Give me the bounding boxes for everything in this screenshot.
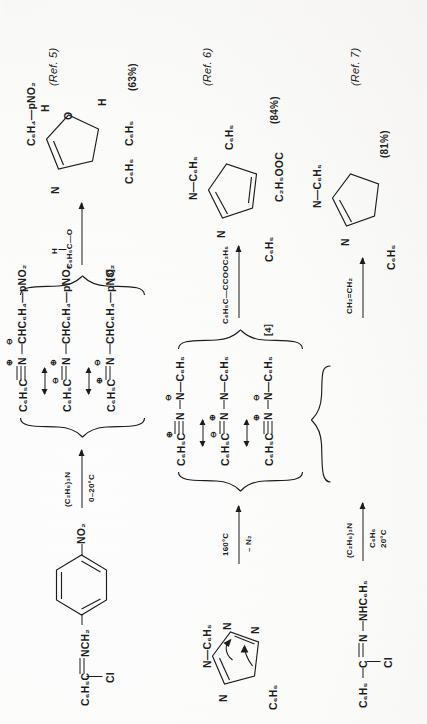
res5-left-charge: ⊖ bbox=[208, 431, 217, 438]
reaction-arrow-2 bbox=[81, 203, 82, 265]
product-phenyl-label-1: C₆H₅ bbox=[122, 158, 134, 184]
bond-c-n-b bbox=[362, 643, 363, 657]
bond-cn-b bbox=[83, 658, 84, 674]
reactant-cl-label: Cl bbox=[103, 672, 115, 683]
resonance-arrow-3 bbox=[202, 420, 203, 446]
reference-label-5: (Ref. 5) bbox=[46, 48, 58, 86]
res4-bond-2 bbox=[178, 421, 179, 434]
res5-bond-1 bbox=[219, 421, 220, 434]
reaction-arrow-6 bbox=[362, 258, 363, 318]
reactant-nitro-label: NO₂ bbox=[74, 523, 86, 544]
res5-bond-2 bbox=[223, 421, 224, 434]
oxazoline-ring bbox=[44, 99, 122, 179]
pyrazoline-n: N bbox=[338, 238, 350, 246]
resonance-arrow-1 bbox=[44, 368, 45, 394]
pyrazole-n: N bbox=[214, 230, 226, 238]
bracket-right-scheme-6 bbox=[176, 328, 306, 350]
res6-right-charge: ⊖ bbox=[251, 394, 260, 401]
res5-right: N—C₆H₅ bbox=[217, 356, 229, 400]
tetrazole-phenyl: C₆H₅ bbox=[266, 684, 278, 710]
res6-bond-3 bbox=[271, 421, 272, 434]
res6-center-charge: ⊕ bbox=[251, 414, 260, 421]
product-o-label: O bbox=[61, 112, 73, 120]
pyrazole-phenyl-1: C₆H₅ bbox=[262, 236, 274, 262]
res4-bond-3 bbox=[182, 421, 183, 434]
res6-bond-2 bbox=[267, 421, 268, 434]
reagent-h-label: H bbox=[49, 248, 58, 254]
bond-ring-no2 bbox=[81, 544, 82, 556]
res5-center-charge: ⊕ bbox=[207, 414, 216, 421]
bracket-left-scheme-5 bbox=[18, 416, 148, 438]
reagent-label-6: C₆H₅C—CCOOC₂H₅ bbox=[220, 246, 229, 324]
bracket-left-scheme-6 bbox=[176, 470, 306, 492]
condition-below: 0–20°C bbox=[86, 474, 95, 502]
pyrazoline-n-phenyl: N—C₆H₅ bbox=[310, 164, 322, 208]
product-aryl-label: C₆H₄—pNO₂ bbox=[24, 82, 36, 146]
res5-center: N bbox=[217, 412, 229, 420]
reactant-left-label: C₆H₅C bbox=[78, 673, 90, 706]
res2-bond-3 bbox=[65, 344, 66, 354]
pyrazole-phenyl-2: C₆H₅ bbox=[222, 124, 234, 150]
tetrazole-n-1: N bbox=[216, 694, 228, 702]
bond-c-cl bbox=[86, 676, 102, 677]
pyrazole-ester: C₂H₅OOC bbox=[272, 152, 284, 202]
res1-left: C₆H₅C bbox=[16, 379, 28, 412]
yield-label-7: (81%) bbox=[378, 130, 389, 158]
res1-right-charge: ⊖ bbox=[4, 338, 13, 345]
hydrazonoyl-right: NHC₆H₅ bbox=[356, 580, 368, 621]
tetrazole-n-3: N bbox=[248, 626, 260, 634]
reaction-arrow-3 bbox=[238, 506, 239, 564]
res4-right: N—C₆H₅ bbox=[173, 356, 185, 400]
product-h-label-1: H bbox=[38, 104, 50, 112]
condition-below-6: – N₂ bbox=[243, 535, 252, 552]
resonance-arrow-2 bbox=[88, 368, 89, 394]
res6-center: N bbox=[261, 412, 273, 420]
res5-bond-3 bbox=[223, 400, 224, 409]
res2-bond-1 bbox=[61, 366, 62, 380]
res3-bond-3 bbox=[109, 344, 110, 354]
yield-label-6: (84%) bbox=[268, 96, 279, 124]
res1-bond-2 bbox=[20, 366, 21, 380]
res6-left: C₆H₅C bbox=[262, 433, 274, 466]
res4-center: N bbox=[173, 412, 185, 420]
reaction-arrow bbox=[81, 450, 82, 508]
bond-ph-c bbox=[362, 668, 363, 678]
res4-bond-4 bbox=[179, 400, 180, 409]
hydrazonoyl-left: C₆H₅ bbox=[356, 682, 368, 708]
res1-bond-1 bbox=[16, 366, 17, 380]
reaction-arrow-4 bbox=[238, 246, 239, 318]
res2-center: N bbox=[59, 357, 71, 365]
bond-c-n-a bbox=[358, 643, 359, 657]
reference-label-7: (Ref. 7) bbox=[348, 48, 360, 86]
product-h-label-2: H bbox=[95, 98, 107, 106]
bond-cn-a bbox=[79, 658, 80, 674]
pyrazole-n-phenyl: N—C₆H₅ bbox=[186, 156, 198, 200]
bracket-bottom-scheme-7 bbox=[310, 364, 332, 484]
res2-bond-2 bbox=[65, 366, 66, 380]
res2-left-charge: ⊖ bbox=[50, 377, 59, 384]
res6-bond-1 bbox=[263, 421, 264, 434]
res1-center-charge: ⊕ bbox=[4, 359, 13, 366]
bond-c-cl-2 bbox=[366, 661, 380, 662]
bracket-right-scheme-5 bbox=[18, 274, 148, 296]
res4-left: C₆H₅C bbox=[174, 433, 186, 466]
res3-center: N bbox=[103, 357, 115, 365]
pyrazoline-phenyl: C₆H₅ bbox=[384, 244, 396, 270]
res3-left-charge: ⊕ bbox=[94, 377, 103, 384]
res4-right-charge: ⊖ bbox=[163, 394, 172, 401]
res2-left: C₆H₅C bbox=[60, 379, 72, 412]
res6-bond-4 bbox=[267, 400, 268, 409]
hydrazonoyl-n: N bbox=[356, 634, 368, 642]
res4-bond-1 bbox=[174, 421, 175, 434]
reactant-link-label: NCH₂ bbox=[78, 629, 90, 657]
reagent-label: C₆H₅C—O bbox=[64, 229, 73, 269]
condition-below-7b: 20°C bbox=[378, 529, 387, 548]
res6-right: N—C₆H₅ bbox=[261, 356, 273, 400]
condition-above-7: (C₂H₅)₃N bbox=[344, 523, 353, 558]
product-phenyl-label-2: C₆H₅ bbox=[122, 120, 134, 146]
pyrazole-ring bbox=[206, 152, 270, 224]
reference-label-6: (Ref. 6) bbox=[200, 48, 212, 86]
product-n-label: N bbox=[48, 186, 60, 194]
reaction-arrow-5 bbox=[362, 503, 363, 561]
res3-center-charge: ⊖ bbox=[92, 359, 101, 366]
